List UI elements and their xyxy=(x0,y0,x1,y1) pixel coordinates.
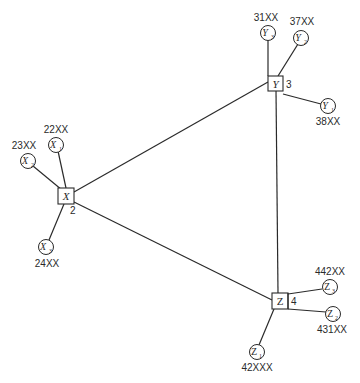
leaf-x2-sub: 2 xyxy=(31,162,34,168)
leaf-y1-sub: 1 xyxy=(331,107,334,113)
link-x-x2 xyxy=(33,166,62,190)
leaf-x3-code: 24XX xyxy=(35,258,60,269)
leaf-x1-symbol: X xyxy=(49,139,57,150)
link-x-x3 xyxy=(49,204,64,240)
leaf-x3: X 3 24XX xyxy=(35,240,60,270)
leaf-x1-code: 22XX xyxy=(44,124,69,135)
leaf-y1-code: 38XX xyxy=(316,116,341,127)
hub-x-label: X xyxy=(62,190,71,202)
leaf-x3-symbol: X xyxy=(39,241,47,252)
leaf-z3: Z 3 442XX xyxy=(315,266,345,295)
hub-x-number: 2 xyxy=(70,205,76,216)
link-y-z xyxy=(276,90,278,293)
link-x-x1 xyxy=(58,151,66,188)
leaf-y3-sub: 3 xyxy=(271,34,274,40)
leaf-y2-sub: 2 xyxy=(304,39,307,45)
leaf-z3-sub: 3 xyxy=(332,288,335,294)
leaf-z1: Z 1 42XXX xyxy=(241,345,272,374)
leaf-x2-symbol: X xyxy=(21,155,29,166)
leaf-x2-code: 23XX xyxy=(12,140,37,151)
link-z-z3 xyxy=(288,289,322,294)
link-x-y xyxy=(74,82,268,192)
leaf-z2-sub: 2 xyxy=(335,315,338,321)
hub-z-number: 4 xyxy=(291,296,297,307)
leaf-z2-symbol: Z xyxy=(327,308,333,319)
leaf-z1-code: 42XXX xyxy=(241,362,272,373)
leaf-y3: Y 3 31XX xyxy=(254,12,279,41)
link-x-z xyxy=(74,202,272,300)
hub-y-number: 3 xyxy=(286,79,292,90)
leaf-z2-code: 431XX xyxy=(317,324,347,335)
leaf-z3-symbol: Z xyxy=(324,281,330,292)
hub-z-label: Z xyxy=(277,295,284,307)
leaf-y2-code: 37XX xyxy=(290,16,315,27)
leaf-z1-symbol: Z xyxy=(251,346,257,357)
leaf-y2: Y 2 37XX xyxy=(290,16,315,46)
hub-links xyxy=(74,82,278,300)
leaf-x1: X 1 22XX xyxy=(44,124,69,153)
leaf-x2: X 2 23XX xyxy=(12,140,37,169)
leaf-x3-sub: 3 xyxy=(49,248,52,254)
link-z-z1 xyxy=(259,309,274,345)
leaf-y1: Y 1 38XX xyxy=(316,99,341,128)
hub-z: Z 4 xyxy=(272,293,297,309)
leaf-y3-code: 31XX xyxy=(254,12,279,23)
leaf-z3-code: 442XX xyxy=(315,266,345,277)
leaf-z1-sub: 1 xyxy=(259,353,262,359)
leaf-z2: Z 2 431XX xyxy=(317,307,347,336)
link-z-z2 xyxy=(288,309,326,312)
network-diagram: X 2 Y 3 Z 4 X 1 22XX X 2 23XX X 3 24XX Y… xyxy=(0,0,360,383)
leaf-x1-sub: 1 xyxy=(59,146,62,152)
hub-y: Y 3 xyxy=(268,76,292,91)
link-y-y1 xyxy=(283,94,321,104)
link-y-y2 xyxy=(278,44,298,76)
